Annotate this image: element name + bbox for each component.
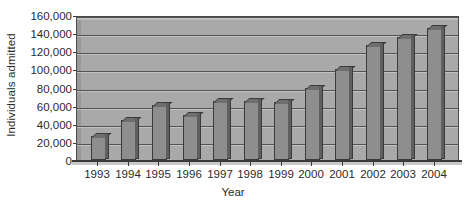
plot-gridline-highlight [77, 18, 458, 19]
bar [366, 45, 381, 160]
bar-side-face [135, 117, 139, 159]
x-axis-tick-mark [97, 162, 98, 166]
bar-side-face [288, 99, 292, 159]
x-axis-tick-label: 1994 [115, 168, 141, 180]
y-axis-tick-label: 160,000 [18, 10, 72, 22]
bar-side-face [166, 102, 170, 159]
x-axis-tick-mark [403, 162, 404, 166]
bar [152, 105, 167, 160]
x-axis-tick-mark [128, 162, 129, 166]
x-axis-tick-label: 2001 [329, 168, 355, 180]
x-axis-tick-label: 2000 [298, 168, 324, 180]
bar-side-face [380, 42, 384, 159]
y-axis-tick-label: 140,000 [18, 28, 72, 40]
bar [397, 37, 412, 160]
y-axis-tick-label: 120,000 [18, 46, 72, 58]
bar-side-face [258, 98, 262, 159]
x-axis-tick-label: 1996 [176, 168, 202, 180]
bar [274, 102, 289, 160]
bar-side-face [105, 133, 109, 159]
x-axis-tick-label: 1998 [237, 168, 263, 180]
bar-side-face [441, 25, 445, 159]
x-axis-tick-mark [281, 162, 282, 166]
bar-side-face [411, 34, 415, 159]
y-axis-tick-label: 0 [18, 155, 72, 167]
x-axis-tick-label: 1995 [145, 168, 171, 180]
x-axis-tick-mark [220, 162, 221, 166]
bar [91, 136, 106, 160]
x-axis-tick-label: 1993 [84, 168, 110, 180]
bar [427, 28, 442, 160]
bar [183, 115, 198, 160]
x-axis-tick-mark [342, 162, 343, 166]
y-axis-tick-label: 80,000 [18, 83, 72, 95]
y-axis-tick-label: 100,000 [18, 64, 72, 76]
bar-chart: Individuals admitted 020,00040,00060,000… [0, 0, 466, 210]
bar [121, 120, 136, 160]
x-axis-tick-label: 1997 [207, 168, 233, 180]
y-axis-tick-labels: 020,00040,00060,00080,000100,000120,0001… [18, 0, 72, 170]
x-axis-tick-label: 2004 [421, 168, 447, 180]
plot-wall-side [77, 17, 81, 160]
bar [305, 88, 320, 160]
plot-gridline [77, 17, 458, 18]
x-axis-tick-mark [373, 162, 374, 166]
bar-side-face [349, 66, 353, 159]
bar-side-face [227, 98, 231, 159]
x-axis-tick-mark [158, 162, 159, 166]
y-axis-tick-label: 20,000 [18, 137, 72, 149]
plot-area [76, 16, 459, 161]
x-axis-tick-label: 2003 [390, 168, 416, 180]
y-axis-tick-label: 40,000 [18, 119, 72, 131]
x-axis-tick-label: 1999 [268, 168, 294, 180]
bar-side-face [197, 112, 201, 159]
bar [244, 101, 259, 160]
y-axis-title-text: Individuals admitted [5, 33, 17, 137]
x-axis-tick-mark [311, 162, 312, 166]
x-axis-tick-mark [189, 162, 190, 166]
x-axis-tick-mark [250, 162, 251, 166]
bar-side-face [319, 85, 323, 159]
bar [335, 69, 350, 160]
y-axis-tick-label: 60,000 [18, 101, 72, 113]
bar [213, 101, 228, 160]
x-axis-tick-mark [434, 162, 435, 166]
x-axis-title: Year [0, 186, 466, 198]
x-axis-tick-label: 2002 [360, 168, 386, 180]
